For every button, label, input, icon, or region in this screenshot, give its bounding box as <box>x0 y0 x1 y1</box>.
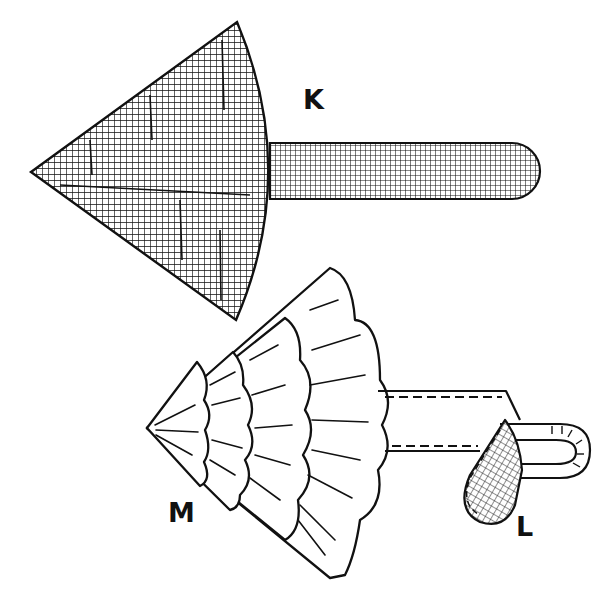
illustration-canvas <box>0 0 603 596</box>
label-l: L <box>516 513 533 540</box>
ribbon-loop-stitching <box>552 426 584 467</box>
figure-k-pattern-piece <box>31 22 540 320</box>
label-m: M <box>168 499 195 526</box>
figure-l-ribbon <box>378 391 590 524</box>
label-k: K <box>303 86 324 113</box>
ribbon-end-tab <box>464 420 522 524</box>
figure-m-ruffle <box>147 268 388 578</box>
k-fan-wedge <box>31 22 268 320</box>
k-handle-strip <box>270 143 540 199</box>
